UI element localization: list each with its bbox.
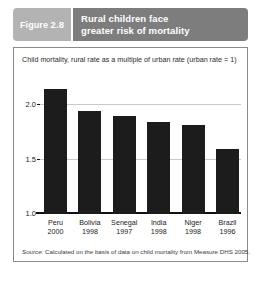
category-year: 1998 [79,227,100,236]
bar[interactable] [44,89,67,214]
category-year: 1997 [111,227,137,236]
figure-title-line-1: Rural children face [81,13,248,25]
category-name: Senegal [111,218,137,227]
bar-series: Peru2000Bolivia1998Senegal1997India1998N… [40,78,241,214]
category-name: Bolivia [79,218,100,227]
x-axis-category-label: India1998 [151,218,167,236]
figure-title-box: Rural children face greater risk of mort… [73,8,248,41]
y-axis-tick-label: 1.5 [26,154,36,163]
bar-slot: Bolivia1998 [78,78,101,214]
bar-slot: Brazil1996 [216,78,239,214]
figure-title-line-2: greater risk of mortality [81,25,248,37]
category-name: Niger [184,218,201,227]
category-year: 1998 [151,227,167,236]
bar-slot: Niger1998 [182,78,205,214]
category-year: 1998 [184,227,201,236]
bar-slot: India1998 [147,78,170,214]
category-year: 2000 [48,227,64,236]
figure-number-box: Figure 2.8 [13,8,71,41]
bar[interactable] [216,149,239,214]
chart-panel: Child mortality, rural rate as a multipl… [13,47,248,262]
bar[interactable] [147,122,170,214]
x-axis-category-label: Peru2000 [48,218,64,236]
source-text: Calculated on the basis of data on child… [43,248,250,255]
chart-subtitle: Child mortality, rural rate as a multipl… [22,55,237,64]
bar[interactable] [78,111,101,214]
source-note: Source: Calculated on the basis of data … [22,248,250,255]
bar-slot: Senegal1997 [113,78,136,214]
x-axis-category-label: Brazil1996 [218,218,236,236]
category-name: Peru [48,218,64,227]
figure-container: Figure 2.8 Rural children face greater r… [0,0,260,295]
x-axis-category-label: Senegal1997 [111,218,137,236]
x-axis-category-label: Niger1998 [184,218,201,236]
bar[interactable] [182,125,205,214]
figure-header-banner: Figure 2.8 Rural children face greater r… [13,8,248,41]
figure-label-word: Figure [20,20,48,30]
figure-label-number: 2.8 [51,19,65,30]
category-year: 1996 [218,227,236,236]
source-label: Source: [22,248,43,255]
bar-slot: Peru2000 [44,78,67,214]
y-axis-tick-label: 1.0 [26,209,36,218]
x-axis-category-label: Bolivia1998 [79,218,100,236]
category-name: Brazil [218,218,236,227]
category-name: India [151,218,167,227]
y-axis-tick-label: 2.0 [26,100,36,109]
bar[interactable] [113,116,136,214]
plot-area: 1.01.52.0 Peru2000Bolivia1998Senegal1997… [40,78,241,214]
